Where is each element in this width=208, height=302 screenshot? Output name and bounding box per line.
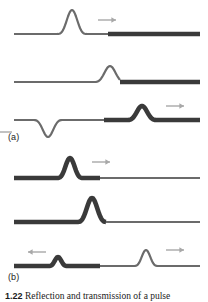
panel-b-step-2 — [0, 190, 208, 236]
rope-segment-light — [100, 250, 200, 266]
arrow-head — [28, 249, 33, 255]
rope-segment-heavy — [14, 198, 106, 222]
rope-segment-light — [14, 10, 108, 34]
rope-segment-heavy — [14, 158, 100, 178]
direction-arrow-right — [92, 159, 110, 165]
rope-segment-light — [14, 66, 120, 82]
direction-arrow-right — [166, 247, 184, 253]
figure-caption-number: 1.22 — [5, 291, 23, 301]
arrow-head — [179, 103, 184, 109]
figure-caption-text: Reflection and transmission of a pulse — [25, 291, 170, 301]
panel-b-step-1 — [0, 146, 208, 190]
part-b-label: (b) — [8, 272, 19, 282]
panel-a-step-3 — [0, 94, 208, 140]
figure-container: (a) (b) 1.22 Reflection and transmission… — [0, 0, 208, 302]
arrow-head — [105, 159, 110, 165]
rope-segment-light — [14, 120, 104, 137]
rope-segment-heavy — [104, 106, 200, 120]
panel-b-step-3 — [0, 236, 208, 280]
arrow-head — [179, 247, 184, 253]
panel-a-step-2 — [0, 48, 208, 94]
direction-arrow-left — [28, 249, 46, 255]
rope-segment-heavy — [14, 257, 100, 266]
panel-a-step-1 — [0, 0, 208, 48]
part-a-label: (a) — [8, 132, 19, 142]
arrow-head — [111, 17, 116, 23]
direction-arrow-right — [98, 17, 116, 23]
figure-caption: 1.22 Reflection and transmission of a pu… — [5, 291, 208, 302]
direction-arrow-right — [166, 103, 184, 109]
